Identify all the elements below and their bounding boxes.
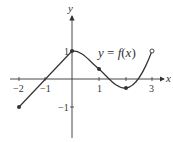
x-tick-label-1: 1 xyxy=(97,83,102,94)
open-point-3-1 xyxy=(150,49,154,53)
y-axis-label: y xyxy=(67,2,73,14)
x-tick-label-3: 3 xyxy=(149,83,154,94)
point-1 xyxy=(97,67,101,71)
point-2-min xyxy=(124,86,128,90)
function-label: y = f(x) xyxy=(96,45,136,60)
chart-container: −2 −1 1 3 1 −1 x y y = f(x) xyxy=(0,0,173,142)
x-tick-label-neg2: −2 xyxy=(13,83,24,94)
y-tick-label-neg1: −1 xyxy=(58,102,69,113)
x-axis-label: x xyxy=(165,72,171,84)
function-graph: −2 −1 1 3 1 −1 x y y = f(x) xyxy=(0,0,173,142)
x-tick-label-neg1: −1 xyxy=(40,83,51,94)
point-neg2-neg1 xyxy=(17,105,21,109)
point-0-1 xyxy=(70,49,74,53)
